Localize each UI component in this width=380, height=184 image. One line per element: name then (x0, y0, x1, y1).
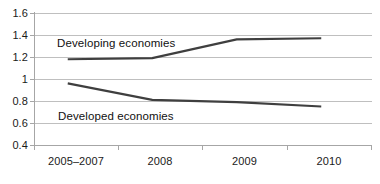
y-tick-mark-1.6 (30, 13, 35, 14)
y-tick-label-0.4: 0.4 (0, 140, 28, 151)
series-annotation-developed-economies: Developed economies (58, 110, 174, 123)
gridline-1.0 (34, 79, 372, 80)
gridline-0.8 (34, 101, 372, 102)
x-tick-label-2008: 2008 (118, 155, 202, 167)
x-axis-line (34, 145, 372, 146)
y-tick-mark-0.8 (30, 101, 35, 102)
gridline-1.2 (34, 57, 372, 58)
y-tick-mark-1.0 (30, 79, 35, 80)
y-tick-mark-1.2 (30, 57, 35, 58)
y-tick-label-1.4: 1.4 (0, 30, 28, 41)
plot-area (34, 13, 372, 145)
gridline-0.6 (34, 123, 372, 124)
line-chart: 1.6 1.4 1.2 1 0.8 0.6 0.4 2005–2007 2008… (0, 0, 380, 184)
y-tick-label-1.2: 1.2 (0, 52, 28, 63)
gridline-1.6 (34, 13, 372, 14)
x-tick-mark-1 (118, 145, 119, 150)
x-tick-mark-0 (34, 145, 35, 150)
y-tick-mark-1.4 (30, 35, 35, 36)
y-tick-label-0.6: 0.6 (0, 118, 28, 129)
x-tick-mark-4 (371, 145, 372, 150)
series-annotation-developing-economies: Developing economies (57, 37, 175, 50)
gridline-1.4 (34, 35, 372, 36)
x-tick-mark-2 (202, 145, 203, 150)
y-tick-mark-0.6 (30, 123, 35, 124)
y-tick-label-1.6: 1.6 (0, 8, 28, 19)
x-tick-label-2010: 2010 (287, 155, 371, 167)
x-tick-label-2009: 2009 (202, 155, 287, 167)
y-tick-label-0.8: 0.8 (0, 96, 28, 107)
y-tick-label-1.0: 1 (0, 74, 28, 85)
x-tick-label-2005-2007: 2005–2007 (34, 155, 118, 167)
x-tick-mark-3 (287, 145, 288, 150)
